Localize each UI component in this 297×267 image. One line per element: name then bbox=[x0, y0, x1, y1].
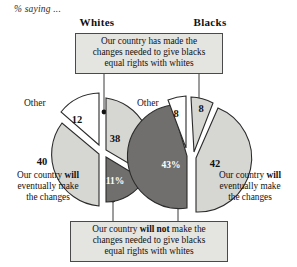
caption-left-line3: the changes bbox=[2, 192, 94, 203]
callout-bottom-line1-a: Our country bbox=[92, 224, 140, 234]
value-whites-made: 38 bbox=[104, 133, 126, 144]
other-label-blacks: Other bbox=[137, 98, 159, 108]
value-whites-other: 12 bbox=[66, 114, 88, 125]
other-label-whites: Other bbox=[24, 98, 46, 108]
callout-bottom-emphasis: will not bbox=[140, 224, 170, 234]
caption-right-line1: Our country will bbox=[203, 170, 297, 181]
caption-left-emphasis: will bbox=[65, 170, 79, 180]
callout-made-changes: Our country has made the changes needed … bbox=[75, 33, 223, 74]
caption-right-emphasis: will bbox=[267, 170, 281, 180]
caption-right-line2: eventually make bbox=[203, 181, 297, 192]
callout-top-line2: changes needed to give blacks bbox=[79, 47, 219, 58]
caption-left-line2: eventually make bbox=[2, 181, 94, 192]
caption-whites-eventually: Our country will eventually make the cha… bbox=[2, 170, 94, 203]
paired-pie-chart: % saying ... Whites Blacks Our country h… bbox=[0, 0, 297, 267]
callout-bottom-line1-c: make the bbox=[170, 224, 206, 234]
value-blacks-other: 8 bbox=[167, 108, 185, 119]
caption-right-line1-a: Our country bbox=[219, 170, 267, 180]
column-header-whites: Whites bbox=[62, 16, 132, 28]
value-blacks-eventually: 42 bbox=[204, 158, 226, 169]
callout-bottom-line1: Our country will not make the bbox=[74, 224, 224, 235]
callout-will-not-make-changes: Our country will not make the changes ne… bbox=[70, 221, 228, 262]
value-blacks-willnot: 43% bbox=[156, 160, 186, 170]
caption-left-line1-a: Our country bbox=[17, 170, 65, 180]
value-whites-eventually: 40 bbox=[31, 156, 53, 167]
column-header-blacks: Blacks bbox=[175, 16, 245, 28]
chart-note: % saying ... bbox=[14, 4, 61, 14]
callout-bottom-line2: changes needed to give blacks bbox=[74, 235, 224, 246]
caption-left-line1: Our country will bbox=[2, 170, 94, 181]
value-whites-willnot: 11% bbox=[101, 176, 129, 186]
callout-top-line1: Our country has made the bbox=[79, 36, 219, 47]
value-blacks-made: 8 bbox=[192, 103, 210, 114]
callout-bottom-line3: equal rights with whites bbox=[74, 246, 224, 257]
callout-top-line3: equal rights with whites bbox=[79, 58, 219, 69]
caption-right-line3: the changes bbox=[203, 192, 297, 203]
caption-blacks-eventually: Our country will eventually make the cha… bbox=[203, 170, 297, 203]
